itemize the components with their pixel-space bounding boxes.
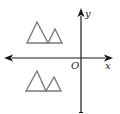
x-axis-label: x (105, 61, 111, 71)
lower-large-triangle (26, 71, 46, 91)
origin-label: O (71, 61, 79, 71)
y-axis-up-arrow-icon (78, 8, 85, 17)
upper-large-triangle (27, 22, 48, 43)
upper-triangle-figure (27, 22, 62, 43)
x-axis-left-arrow-icon (4, 55, 13, 62)
lower-triangle-figure (26, 71, 61, 91)
lower-small-triangle (46, 77, 61, 91)
y-axis-label: y (85, 9, 91, 19)
upper-small-triangle (48, 29, 62, 43)
coordinate-plane-diagram (0, 0, 120, 114)
